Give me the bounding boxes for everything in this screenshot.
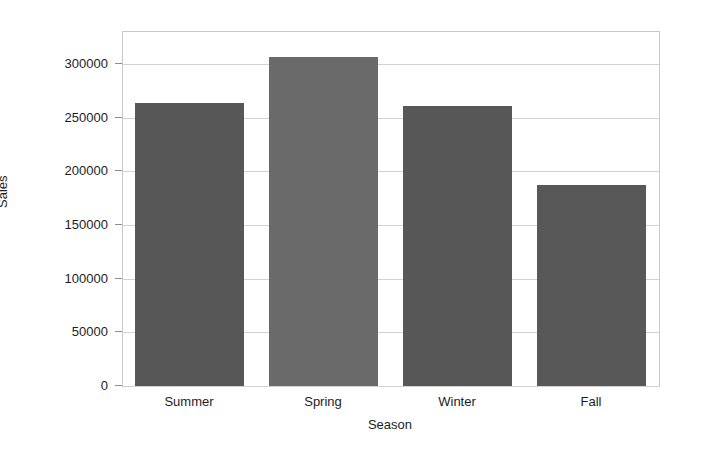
y-axis-title: Sales [0, 175, 10, 208]
plot-area [122, 31, 660, 387]
y-tick-label: 0 [0, 378, 108, 393]
y-tick-label: 300000 [0, 56, 108, 71]
y-tick-mark [115, 117, 122, 118]
y-tick-label: 200000 [0, 163, 108, 178]
gridline [123, 386, 659, 387]
y-tick-mark [115, 331, 122, 332]
bar-spring[interactable] [269, 57, 378, 386]
bar-chart-figure: Sales 0500001000001500002000002500003000… [0, 0, 704, 456]
y-tick-mark [115, 63, 122, 64]
bar-summer[interactable] [135, 103, 244, 386]
y-tick-label: 150000 [0, 217, 108, 232]
x-tick-label-fall: Fall [581, 394, 602, 409]
y-tick-label: 50000 [0, 324, 108, 339]
y-tick-label: 250000 [0, 110, 108, 125]
x-tick-label-winter: Winter [438, 394, 476, 409]
y-tick-mark [115, 224, 122, 225]
x-tick-label-summer: Summer [164, 394, 213, 409]
bar-fall[interactable] [537, 185, 646, 386]
y-tick-label: 100000 [0, 271, 108, 286]
y-tick-mark [115, 170, 122, 171]
bar-winter[interactable] [403, 106, 512, 386]
y-tick-mark [115, 385, 122, 386]
y-tick-mark [115, 278, 122, 279]
x-tick-label-spring: Spring [304, 394, 342, 409]
bars-group [123, 32, 659, 386]
x-axis-title: Season [368, 417, 412, 432]
